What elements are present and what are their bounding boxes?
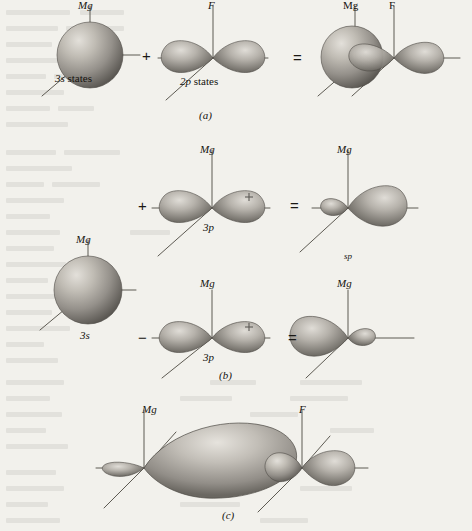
caption-3s-states: 3s states	[55, 73, 92, 84]
axis-label-mg-b-res-top: Mg	[337, 144, 352, 155]
panel-label-a: (a)	[199, 110, 212, 121]
orbital-c-lobe-right	[302, 451, 355, 486]
orbital-sp-top-lobe-small	[321, 199, 348, 216]
axis-label-mg-a2: Mg	[343, 0, 358, 11]
axis-label-mg-b-res-bot: Mg	[337, 278, 352, 289]
orbital-sp-bottom-lobe-large	[290, 316, 348, 356]
figure-sp-hybridization: Mg 3s states + F 2p states = Mg F (a) Mg…	[0, 0, 472, 531]
axis-label-mg-b-p-top: Mg	[200, 144, 215, 155]
orbital-3p-bottom-lobe-left	[159, 322, 212, 353]
orbital-3s-sphere-b	[54, 256, 122, 324]
orbital-3p-top-lobe-left	[159, 191, 212, 223]
operator-plus-a: +	[142, 48, 151, 63]
caption-3p-top: 3p	[203, 222, 214, 233]
operator-equals-b-top: =	[290, 198, 299, 213]
orbital-combined-lobe-left	[349, 44, 394, 71]
orbital-combined-lobe-right	[394, 42, 444, 73]
orbital-2p-lobe-right	[213, 41, 265, 73]
orbital-3p-bottom-lobe-right	[212, 322, 265, 353]
caption-sp: sp	[344, 252, 352, 261]
operator-equals-b-bottom: =	[288, 330, 297, 345]
orbital-sp-bottom-lobe-small	[348, 329, 375, 346]
axis-label-mg-a1: Mg	[78, 0, 93, 11]
operator-equals-a: =	[293, 50, 302, 65]
panel-label-c: (c)	[222, 510, 234, 521]
axis-label-mg-b-p-bot: Mg	[200, 278, 215, 289]
axis-label-mg-c: Mg	[142, 404, 157, 415]
axis-label-mg-b-s: Mg	[76, 234, 91, 245]
orbital-2p-lobe-left	[161, 41, 213, 73]
caption-3p-bottom: 3p	[203, 352, 214, 363]
caption-3s-b: 3s	[80, 330, 90, 341]
operator-plus-b: +	[138, 198, 147, 213]
axis-label-f-a: F	[208, 0, 215, 11]
panel-label-b: (b)	[219, 370, 232, 381]
orbital-sp-top-lobe-large	[348, 186, 407, 226]
caption-2p-states: 2p states	[180, 76, 218, 87]
axis-label-f-a2: F	[389, 0, 395, 11]
axis-label-f-c: F	[299, 404, 306, 415]
orbital-3p-top-lobe-right	[212, 191, 265, 223]
operator-minus-b: −	[138, 330, 147, 345]
